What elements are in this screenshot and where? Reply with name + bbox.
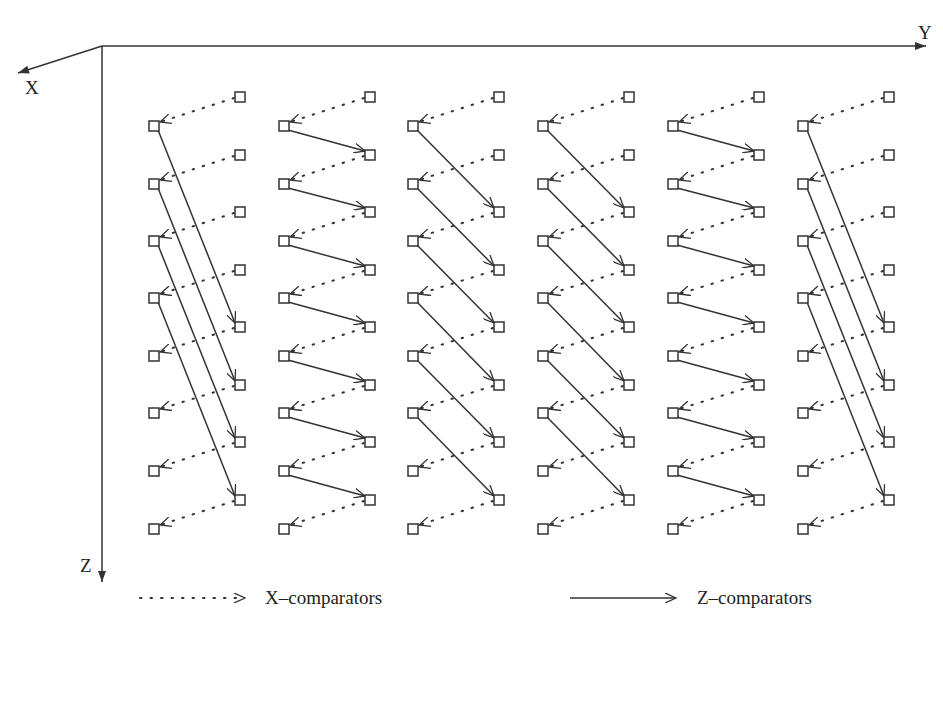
- x-comparator-arrow: [419, 328, 493, 352]
- x-comparator-arrow: [419, 271, 493, 294]
- x-comparator-arrow: [160, 271, 234, 294]
- node-left: [279, 179, 289, 189]
- node-right: [624, 380, 634, 390]
- axis-x-label: X: [25, 77, 39, 99]
- node-right: [754, 150, 764, 160]
- node-left: [668, 466, 678, 476]
- z-comparator-arrow: [547, 360, 624, 438]
- node-left: [538, 293, 548, 303]
- z-comparator-arrow: [547, 417, 624, 496]
- x-comparator-arrow: [290, 386, 364, 409]
- x-comparator-arrow: [679, 271, 753, 294]
- z-comparator-arrow: [288, 417, 365, 438]
- node-right: [884, 265, 894, 275]
- node-right: [884, 380, 894, 390]
- z-comparator-arrow: [677, 475, 754, 496]
- z-comparator-arrow: [547, 302, 624, 381]
- node-left: [149, 351, 159, 361]
- x-comparators-legend-label: X–comparators: [265, 587, 382, 609]
- x-comparator-arrow: [679, 213, 753, 237]
- node-right: [754, 495, 764, 505]
- node-left: [668, 121, 678, 131]
- node-right: [365, 495, 375, 505]
- x-comparator-arrow: [809, 213, 883, 237]
- x-comparator-arrow: [549, 386, 623, 409]
- node-right: [754, 265, 764, 275]
- comparator-network: [149, 92, 894, 534]
- node-right: [624, 437, 634, 447]
- node-left: [798, 408, 808, 418]
- z-comparator-arrow: [677, 302, 754, 323]
- x-comparator-arrow: [549, 501, 623, 525]
- z-comparator-arrow: [288, 130, 365, 151]
- z-comparator-arrow: [417, 417, 494, 496]
- node-right: [235, 207, 245, 217]
- x-comparator-arrow: [809, 386, 883, 409]
- z-comparator-arrow: [677, 245, 754, 266]
- x-comparator-arrow: [679, 501, 753, 525]
- node-right: [235, 92, 245, 102]
- node-left: [538, 179, 548, 189]
- node-right: [884, 437, 894, 447]
- node-left: [538, 121, 548, 131]
- node-left: [408, 293, 418, 303]
- node-right: [754, 437, 764, 447]
- z-comparator-arrow: [677, 360, 754, 381]
- node-left: [668, 408, 678, 418]
- node-left: [279, 524, 289, 534]
- x-comparator-arrow: [549, 328, 623, 352]
- node-right: [624, 495, 634, 505]
- node-right: [884, 150, 894, 160]
- x-comparator-arrow: [160, 501, 234, 525]
- x-comparator-arrow: [419, 386, 493, 409]
- node-right: [754, 380, 764, 390]
- z-comparators-legend-label: Z–comparators: [697, 587, 812, 609]
- node-left: [798, 524, 808, 534]
- node-left: [149, 408, 159, 418]
- node-left: [408, 466, 418, 476]
- z-comparator-arrow: [677, 130, 754, 151]
- node-right: [884, 495, 894, 505]
- node-left: [668, 179, 678, 189]
- node-left: [149, 524, 159, 534]
- node-left: [279, 236, 289, 246]
- node-right: [494, 322, 504, 332]
- z-comparator-arrow: [677, 417, 754, 438]
- x-comparator-arrow: [809, 328, 883, 352]
- z-comparator-arrow: [547, 130, 624, 208]
- x-comparator-arrow: [549, 213, 623, 237]
- node-left: [149, 236, 159, 246]
- node-left: [798, 179, 808, 189]
- node-right: [235, 495, 245, 505]
- x-comparator-arrow: [160, 328, 234, 352]
- node-left: [798, 351, 808, 361]
- z-comparator-arrow: [288, 360, 365, 381]
- z-comparator-arrow: [288, 475, 365, 496]
- node-left: [279, 408, 289, 418]
- x-comparator-arrow: [290, 443, 364, 467]
- axis-z-label: Z: [80, 555, 92, 577]
- node-left: [408, 408, 418, 418]
- node-right: [754, 92, 764, 102]
- x-comparator-arrow: [809, 156, 883, 180]
- node-left: [408, 179, 418, 189]
- node-right: [365, 322, 375, 332]
- node-left: [668, 236, 678, 246]
- node-left: [538, 524, 548, 534]
- node-right: [754, 322, 764, 332]
- node-right: [624, 207, 634, 217]
- node-right: [235, 322, 245, 332]
- x-comparator-arrow: [290, 213, 364, 237]
- z-comparator-arrow: [417, 245, 494, 323]
- x-comparator-arrow: [160, 443, 234, 467]
- node-right: [235, 265, 245, 275]
- node-left: [149, 466, 159, 476]
- x-comparator-arrow: [679, 386, 753, 409]
- node-left: [538, 466, 548, 476]
- node-left: [798, 466, 808, 476]
- node-left: [538, 408, 548, 418]
- x-comparator-arrow: [679, 98, 753, 122]
- x-comparator-arrow: [419, 156, 493, 180]
- x-comparator-arrow: [160, 156, 234, 180]
- node-right: [494, 207, 504, 217]
